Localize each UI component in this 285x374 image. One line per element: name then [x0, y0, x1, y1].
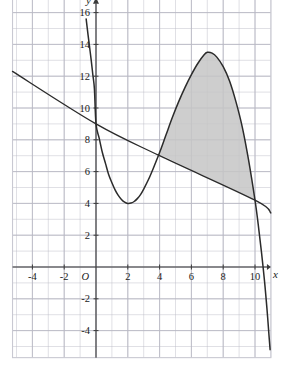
x-tick-label: 4 — [157, 271, 163, 282]
x-tick-label: 2 — [125, 271, 130, 282]
y-tick-label: 6 — [85, 166, 90, 177]
x-tick-label: 8 — [221, 271, 226, 282]
coordinate-plane-svg: -4-2246810-4-2246810121416O — [0, 0, 285, 374]
y-tick-label: 4 — [85, 198, 91, 209]
y-tick-label: 2 — [85, 230, 90, 241]
y-tick-label: 8 — [85, 134, 90, 145]
graph-figure: -4-2246810-4-2246810121416O y x — [0, 0, 285, 374]
x-tick-label: 10 — [250, 271, 261, 282]
x-tick-label: -2 — [60, 271, 69, 282]
x-tick-label: -4 — [28, 271, 37, 282]
y-tick-label: 12 — [80, 71, 91, 82]
origin-label: O — [81, 271, 89, 282]
y-tick-label: -2 — [81, 293, 90, 304]
y-tick-label: -4 — [81, 325, 90, 336]
x-axis-label: x — [273, 268, 278, 280]
y-tick-label: 10 — [80, 103, 91, 114]
y-axis-label: y — [86, 0, 91, 6]
x-tick-label: 6 — [189, 271, 194, 282]
y-tick-label: 16 — [80, 7, 91, 18]
